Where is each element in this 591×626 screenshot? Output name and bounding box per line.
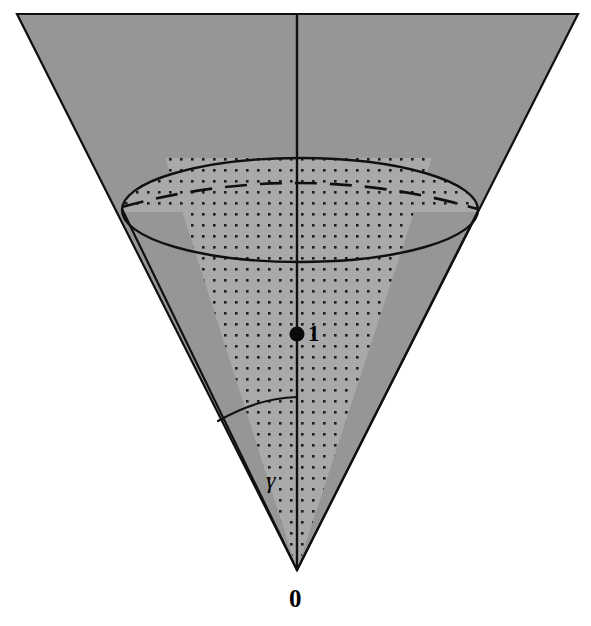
gamma-angle-label: γ	[266, 468, 275, 492]
cone-diagram-svg	[0, 0, 591, 626]
origin-label: 0	[289, 586, 302, 611]
unit-point-marker	[290, 327, 305, 342]
unit-point-label: 1	[308, 322, 320, 345]
figure-canvas: 1 0 γ	[0, 0, 591, 626]
